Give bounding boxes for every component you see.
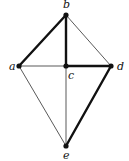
vertex-label-e: e bbox=[63, 149, 70, 161]
vertex-a bbox=[16, 63, 21, 68]
edge-bd bbox=[66, 15, 111, 66]
vertex-label-b: b bbox=[63, 0, 70, 11]
vertex-e bbox=[63, 143, 68, 148]
edge-ab-bold bbox=[19, 15, 66, 66]
vertex-d bbox=[108, 63, 113, 68]
vertex-label-a: a bbox=[9, 60, 16, 73]
vertex-c bbox=[63, 63, 68, 68]
vertex-label-c: c bbox=[68, 69, 74, 82]
vertex-b bbox=[63, 12, 68, 17]
edge-ae bbox=[19, 66, 66, 146]
edges bbox=[19, 15, 111, 146]
vertex-label-d: d bbox=[117, 60, 124, 73]
graph-diagram: abcde bbox=[0, 0, 129, 161]
